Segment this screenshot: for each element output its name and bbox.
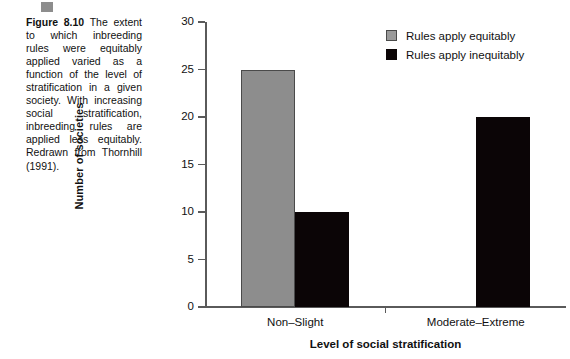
y-axis-tick [198,164,205,165]
gray-square-swatch [386,30,397,41]
x-axis-title: Level of social stratification [205,338,566,350]
y-axis-tick [198,211,205,212]
legend-item: Rules apply equitably [386,26,524,45]
legend-item-label: Rules apply inequitably [406,49,524,61]
bar-chart: 051015202530 Non–SlightModerate–Extreme … [0,0,570,359]
y-axis-title: Number of societies [73,66,85,246]
y-axis-tick-label: 25 [170,64,194,76]
y-axis-tick [198,69,205,70]
y-axis-tick-label: 0 [170,301,194,313]
y-axis-tick [198,21,205,22]
y-axis-tick-label: 15 [170,159,194,171]
x-axis-category-label: Moderate–Extreme [386,316,567,329]
y-axis-tick [198,259,205,260]
bar-equitable [241,70,295,308]
x-axis-tick [385,306,386,313]
y-axis-tick-label: 10 [170,206,194,218]
black-square-swatch [386,49,397,60]
bar-inequitable [476,117,530,307]
bar-inequitable [295,212,349,307]
y-axis-tick-label: 20 [170,111,194,123]
y-axis-line [205,22,207,308]
y-axis-tick-label: 30 [170,16,194,28]
y-axis-tick-label: 5 [170,254,194,266]
chart-legend: Rules apply equitablyRules apply inequit… [386,26,524,64]
x-axis-category-label: Non–Slight [205,316,386,329]
y-axis-tick [198,116,205,117]
y-axis-tick [198,306,205,307]
legend-item-label: Rules apply equitably [406,30,515,42]
legend-item: Rules apply inequitably [386,45,524,64]
